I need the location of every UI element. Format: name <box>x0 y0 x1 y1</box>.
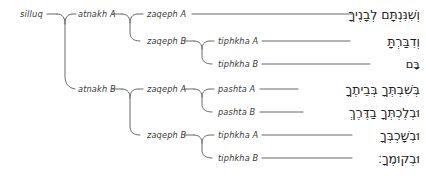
bracket-silluq-split-lower <box>57 14 75 89</box>
node-pashta-b[interactable]: pashta B <box>218 107 255 117</box>
bracket-zaqephB1-upper <box>202 41 214 49</box>
bracket-zaqephA2-upper <box>202 89 214 97</box>
node-zaqeph-a-2[interactable]: zaqeph A <box>147 84 186 94</box>
node-zaqeph-b-2[interactable]: zaqeph B <box>147 130 186 140</box>
node-tiphkha-a-1[interactable]: tiphkha A <box>218 36 258 46</box>
hebrew-phrase-6: וּבְשָׁכְבְּךָ <box>380 128 420 143</box>
bracket-atnakhB-upper <box>130 89 143 98</box>
hebrew-phrase-5: וּבְלֶכְתְּךָ בַדֶּרֶךְ <box>349 105 420 120</box>
diagram-canvas: silluq atnakh A atnakh B zaqeph A zaqeph… <box>0 0 426 178</box>
bracket-silluq-split-upper <box>65 14 76 24</box>
node-zaqeph-a-1[interactable]: zaqeph A <box>147 9 186 19</box>
hebrew-phrase-2: וְדִבַּרְתָּ <box>387 34 420 49</box>
bracket-atnakhB-lower <box>122 89 140 135</box>
node-silluq[interactable]: silluq <box>20 9 43 19</box>
node-atnakh-a[interactable]: atnakh A <box>78 9 116 19</box>
node-tiphkha-b-2[interactable]: tiphkha B <box>218 153 258 163</box>
node-pashta-a[interactable]: pashta A <box>218 84 255 94</box>
bracket-atnakhA-upper <box>130 14 143 23</box>
hebrew-phrase-3: בָּם <box>406 57 420 71</box>
node-tiphkha-a-2[interactable]: tiphkha A <box>218 130 258 140</box>
node-zaqeph-b-1[interactable]: zaqeph B <box>147 36 186 46</box>
node-tiphkha-b-1[interactable]: tiphkha B <box>218 59 258 69</box>
bracket-zaqephB2-upper <box>202 135 214 143</box>
hebrew-phrase-4: בְּשִׁבְתְּךָ בְּבֵיתֶךָ <box>346 82 420 97</box>
node-atnakh-b[interactable]: atnakh B <box>78 84 116 94</box>
hebrew-phrase-1: וְשִׁנִּנְתָּם לְבָנֶיךָ <box>348 7 420 22</box>
hebrew-phrase-7: וּבְקוּמֶךָ׃ <box>378 151 420 166</box>
